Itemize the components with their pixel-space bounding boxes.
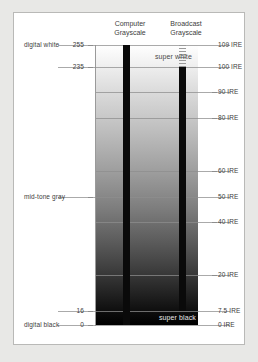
tick-ire-40 xyxy=(212,222,217,223)
column-header-computer-line2: Grayscale xyxy=(102,28,158,37)
computer-grayscale-bar xyxy=(123,45,130,325)
column-header-computer-line1: Computer xyxy=(102,19,158,28)
label-ire-20: 20 IRE xyxy=(218,271,238,278)
rule-40-ire xyxy=(96,222,230,223)
label-ire-100: 100 IRE xyxy=(218,63,242,70)
label-ire-50: 50 IRE xyxy=(218,193,238,200)
label-ire-60: 60 IRE xyxy=(218,167,238,174)
tick-235 xyxy=(88,67,93,68)
rule-80-ire xyxy=(96,118,230,119)
label-digital-white: digital white xyxy=(24,41,59,48)
label-value-235: 235 xyxy=(66,63,84,70)
tick-0 xyxy=(88,325,93,326)
annotation-super-white: super white xyxy=(155,53,192,60)
tick-16 xyxy=(88,311,93,312)
label-digital-black: digital black xyxy=(24,321,59,328)
label-value-0: 0 xyxy=(66,321,84,328)
tick-255 xyxy=(88,45,93,46)
diagram-card: Computer Grayscale Broadcast Grayscale d… xyxy=(13,12,245,345)
label-ire-0: 0 IRE xyxy=(218,321,235,328)
rule-60-ire xyxy=(96,171,230,172)
label-value-255: 255 xyxy=(66,41,84,48)
label-ire-7p5: 7.5 IRE xyxy=(218,307,240,314)
label-value-16: 16 xyxy=(66,307,84,314)
label-ire-80: 80 IRE xyxy=(218,114,238,121)
tick-ire-80 xyxy=(212,118,217,119)
label-ire-40: 40 IRE xyxy=(218,218,238,225)
label-ire-109: 109 IRE xyxy=(218,41,242,48)
column-header-broadcast: Broadcast Grayscale xyxy=(158,19,214,37)
rule-90-ire xyxy=(96,92,230,93)
tick-ire-90 xyxy=(212,92,217,93)
column-header-computer: Computer Grayscale xyxy=(102,19,158,37)
broadcast-grayscale-bar xyxy=(179,67,186,311)
tick-ire-60 xyxy=(212,171,217,172)
column-header-broadcast-line2: Grayscale xyxy=(158,28,214,37)
label-ire-90: 90 IRE xyxy=(218,88,238,95)
rule-50-ire xyxy=(58,197,230,198)
left-axis-line xyxy=(95,45,96,326)
tick-ire-20 xyxy=(212,275,217,276)
rule-20-ire xyxy=(96,275,230,276)
column-header-broadcast-line1: Broadcast xyxy=(158,19,214,28)
annotation-super-black: super black xyxy=(159,314,196,321)
label-mid-tone-gray: mid-tone gray xyxy=(24,193,65,200)
tick-mid-tone xyxy=(88,197,93,198)
